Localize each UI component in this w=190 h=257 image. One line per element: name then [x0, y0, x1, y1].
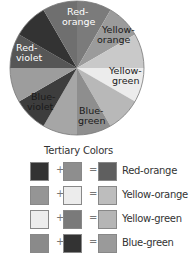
- label-yellow-green: Yellow- green: [108, 65, 145, 86]
- color-wheel: Red- orange Yellow- orange Yellow- green…: [9, 0, 145, 136]
- swatch-result: [98, 210, 117, 229]
- swatch-result: [98, 234, 117, 253]
- result-label: Yellow-green: [122, 213, 182, 224]
- swatch-result: [98, 162, 117, 181]
- label-red-orange: Red- orange: [62, 6, 96, 27]
- swatch-a: [30, 234, 49, 253]
- swatch-b: [63, 186, 82, 205]
- equals-sign: =: [89, 188, 97, 199]
- result-label: Red-orange: [122, 165, 177, 176]
- swatch-b: [63, 234, 82, 253]
- swatch-b: [63, 210, 82, 229]
- swatch-a: [30, 210, 49, 229]
- result-label: Blue-green: [122, 237, 174, 248]
- label-red-violet: Red- violet: [16, 42, 43, 63]
- legend-row: + = Yellow-green: [30, 210, 190, 230]
- label-blue-green: Blue- green: [78, 105, 106, 126]
- swatch-result: [98, 186, 117, 205]
- legend-row: + = Red-orange: [30, 162, 190, 182]
- swatch-a: [30, 162, 49, 181]
- legend-row: + = Blue-green: [30, 234, 190, 254]
- swatch-a: [30, 186, 49, 205]
- equals-sign: =: [89, 212, 97, 223]
- result-label: Yellow-orange: [122, 189, 188, 200]
- legend-row: + = Yellow-orange: [30, 186, 190, 206]
- equals-sign: =: [89, 164, 97, 175]
- legend-title: Tertiary Colors: [44, 145, 113, 156]
- equals-sign: =: [89, 236, 97, 247]
- swatch-b: [63, 162, 82, 181]
